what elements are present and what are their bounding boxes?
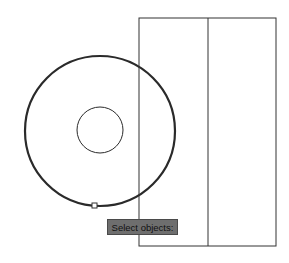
grip-square-icon[interactable] [92, 203, 97, 208]
drawing-canvas[interactable]: Select objects: [0, 0, 289, 263]
command-prompt-tooltip: Select objects: [107, 219, 178, 235]
inner-circle[interactable] [77, 107, 123, 153]
outer-circle[interactable] [25, 56, 175, 206]
